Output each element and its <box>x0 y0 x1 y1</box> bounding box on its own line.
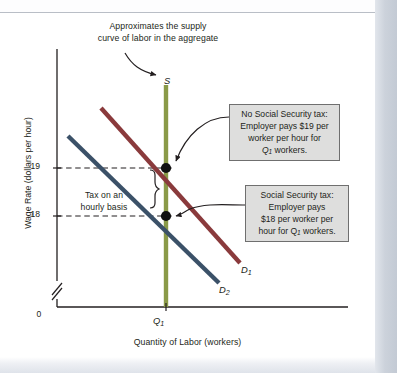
callout1-line4: Q1 workers. <box>235 145 334 157</box>
callout1-line3: worker per hour for <box>235 133 334 145</box>
scanned-page: Approximates the supply curve of labor i… <box>0 0 397 373</box>
callout2-q-prefix: hour for Q <box>258 226 297 236</box>
page-bottom-margin <box>0 357 397 373</box>
origin-label: 0 <box>34 309 44 319</box>
y-tick-label-18: 18 <box>22 209 40 219</box>
arrow-callout1-to-point <box>176 117 229 161</box>
equilibrium-point-no-tax <box>161 163 171 173</box>
tax-bracket-label: Tax on an hourly basis <box>71 189 137 213</box>
d1-subscript: 1 <box>248 269 252 277</box>
callout-social-security-tax: Social Security tax: Employer pays $18 p… <box>245 185 349 242</box>
callout1-q-suffix: workers. <box>272 145 307 155</box>
y-axis-label: Wage Rate (dollars per hour) <box>23 88 33 258</box>
axis-break-icon <box>52 283 62 300</box>
d1-letter: D <box>241 264 248 275</box>
supply-curve-label: S <box>164 75 170 86</box>
d2-letter: D <box>219 284 226 295</box>
callout2-line3: $18 per worker per <box>251 214 343 226</box>
demand-curve-d1-label: D1 <box>241 264 252 277</box>
callout1-line2: Employer pays $19 per <box>235 121 334 133</box>
equilibrium-point-with-tax <box>161 211 171 221</box>
x-tick-label-q1: Q1 <box>153 315 164 328</box>
page-top-margin <box>0 0 375 12</box>
callout1-line1: No Social Security tax: <box>235 109 334 121</box>
callout2-line1: Social Security tax: <box>251 190 343 202</box>
y-tick-label-19: 19 <box>22 161 40 171</box>
arrow-topnote-to-supply <box>125 53 156 75</box>
x-axis-label: Quantity of Labor (workers) <box>85 337 290 348</box>
callout2-q-suffix: workers. <box>301 226 336 236</box>
demand-curve-d2-label: D2 <box>219 284 230 297</box>
d2-subscript: 2 <box>226 289 230 297</box>
callout2-line2: Employer pays <box>251 202 343 214</box>
figure-canvas: Approximates the supply curve of labor i… <box>0 13 375 358</box>
callout2-line4: hour for Q1 workers. <box>251 226 343 238</box>
tax-bracket-brace <box>150 170 159 208</box>
callout-no-social-security-tax: No Social Security tax: Employer pays $1… <box>229 104 340 161</box>
callout1-q-letter: Q <box>262 145 269 155</box>
supply-curve-note: Approximates the supply curve of labor i… <box>78 21 238 44</box>
q1-subscript: 1 <box>160 320 164 328</box>
page-right-margin <box>375 0 397 373</box>
